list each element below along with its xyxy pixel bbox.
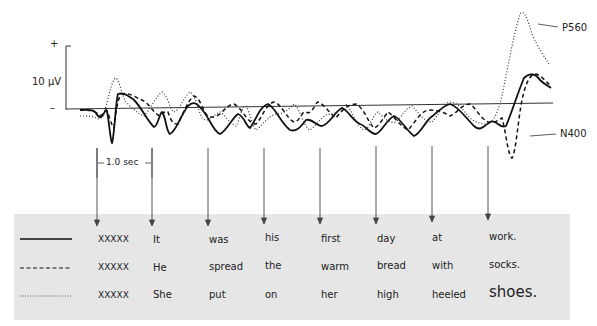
word: the (265, 260, 281, 271)
word: socks. (489, 259, 520, 270)
n400-label: N400 (560, 128, 587, 139)
erp-plot (0, 0, 597, 326)
p560-label: P560 (562, 22, 587, 33)
word: bread (377, 260, 406, 271)
word: at (432, 232, 442, 243)
word: put (209, 289, 226, 300)
word: her (321, 289, 338, 300)
time-scale-label: 1.0 sec (106, 157, 138, 167)
word: on (265, 289, 277, 300)
word-target-shoes: shoes. (489, 283, 537, 301)
y-minus-label: – (50, 102, 55, 113)
word: spread (209, 261, 243, 272)
y-scale-label: 10 µV (32, 76, 61, 87)
word: XXXXX (98, 290, 129, 300)
word: was (209, 234, 229, 245)
y-plus-label: + (50, 38, 58, 49)
waveform-dashed (80, 74, 551, 158)
word: with (432, 260, 453, 271)
word: day (377, 233, 395, 244)
word: his (265, 232, 279, 243)
word: warm (321, 261, 349, 272)
word: XXXXX (98, 262, 129, 272)
word: heeled (432, 289, 466, 300)
word: work. (489, 231, 516, 242)
word: She (153, 289, 172, 300)
erp-figure: + – 10 µV 1.0 sec P560 N400 XXXXX It was… (0, 0, 597, 326)
word-onset-arrows (95, 146, 491, 226)
waveform-solid (80, 74, 551, 143)
word: first (321, 233, 341, 244)
word: high (377, 289, 399, 300)
word: He (153, 262, 167, 273)
word: It (153, 234, 160, 245)
word: XXXXX (98, 234, 129, 244)
